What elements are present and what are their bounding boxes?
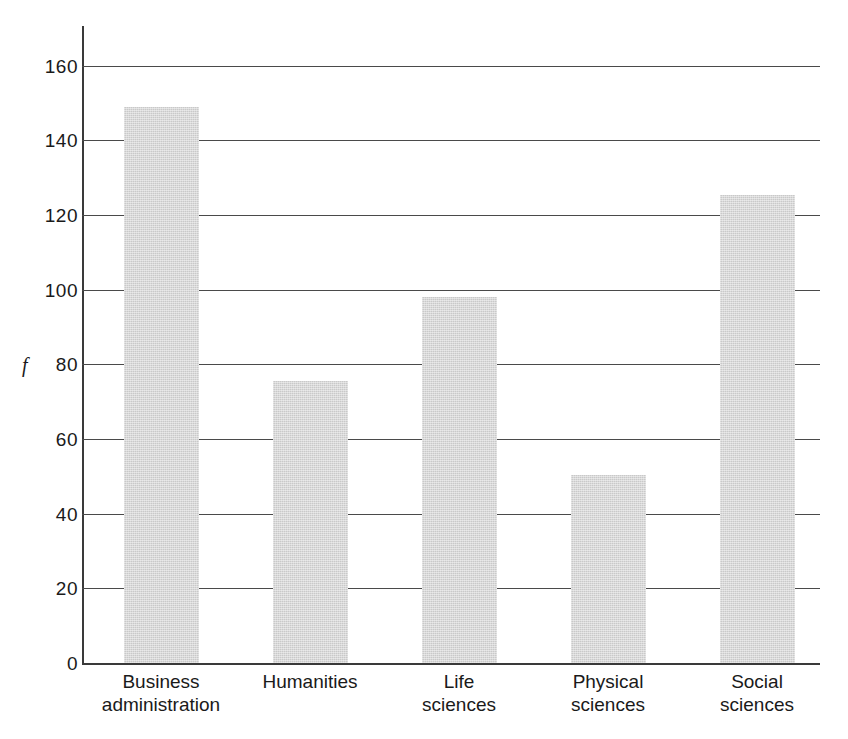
y-axis-label: f [22,355,28,375]
gridline-160 [82,66,820,67]
x-category-label-social-sciences: Socialsciences [673,670,841,716]
plot-area: 160 140 120 100 80 60 40 20 0 f [0,0,848,739]
bar-social-sciences [720,195,795,663]
y-tick-label-160: 160 [16,57,78,76]
y-tick-label-40: 40 [16,505,78,524]
y-tick-label-60: 60 [16,430,78,449]
x-category-label-humanities: Humanities [226,670,394,693]
x-category-label-life-sciences: Lifesciences [375,670,543,716]
bar-life-sciences [422,297,497,663]
bar-humanities [273,381,348,663]
y-axis-line [82,26,84,665]
x-category-label-business-administration: Businessadministration [77,670,245,716]
y-tick-label-120: 120 [16,206,78,225]
bar-physical-sciences [571,475,646,663]
y-tick-label-0: 0 [16,654,78,673]
y-tick-label-100: 100 [16,281,78,300]
x-category-label-physical-sciences: Physicalsciences [524,670,692,716]
bar-chart: 160 140 120 100 80 60 40 20 0 f [0,0,848,739]
y-tick-label-20: 20 [16,579,78,598]
y-tick-label-140: 140 [16,131,78,150]
x-axis-baseline [82,663,820,665]
bar-business-administration [124,107,199,663]
